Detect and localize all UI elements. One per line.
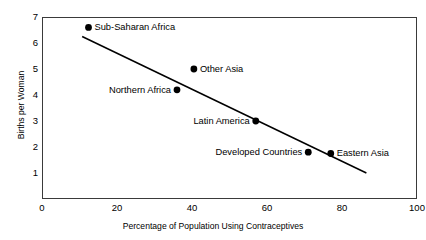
data-point xyxy=(174,86,181,93)
data-point-label: Sub-Saharan Africa xyxy=(95,22,176,32)
data-point-label: Latin America xyxy=(193,116,249,126)
scatter-chart: 7 6 5 4 3 2 1 0 20 40 60 80 100 Births p… xyxy=(0,0,426,240)
data-point-label: Developed Countries xyxy=(215,147,302,157)
data-point xyxy=(305,149,312,156)
data-point xyxy=(190,66,197,73)
data-point-label: Northern Africa xyxy=(109,85,171,95)
data-point xyxy=(327,150,334,157)
data-point-label: Other Asia xyxy=(200,64,243,74)
data-point xyxy=(252,118,259,125)
data-point-label: Eastern Asia xyxy=(337,148,389,158)
data-point xyxy=(85,24,92,31)
